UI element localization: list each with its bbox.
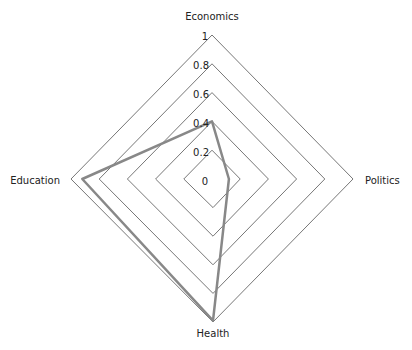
tick-label-0.2: 0.2 — [193, 147, 209, 158]
radar-grid — [71, 35, 353, 322]
grid-ring-3 — [127, 93, 296, 265]
axis-label-education: Education — [10, 175, 60, 186]
radar-plot: 0 0.2 0.4 0.6 0.8 1 Economics Politics H… — [0, 0, 412, 350]
grid-ring-5 — [71, 35, 353, 322]
tick-label-0.8: 0.8 — [193, 60, 209, 71]
axis-label-health: Health — [197, 328, 230, 339]
tick-label-1: 1 — [202, 31, 208, 42]
grid-ring-4 — [99, 64, 325, 294]
tick-label-0.6: 0.6 — [193, 89, 209, 100]
axis-label-politics: Politics — [365, 175, 400, 186]
tick-label-0.4: 0.4 — [193, 118, 209, 129]
radar-chart: 0 0.2 0.4 0.6 0.8 1 Economics Politics H… — [0, 0, 412, 350]
grid-ring-1 — [184, 150, 240, 207]
axis-label-economics: Economics — [185, 11, 239, 22]
tick-label-0: 0 — [202, 176, 208, 187]
